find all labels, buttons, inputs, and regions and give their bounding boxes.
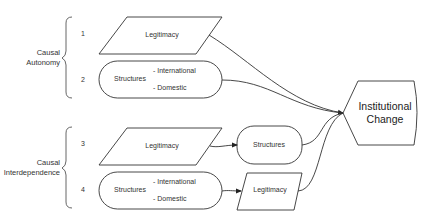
row-number-4: 4: [81, 186, 85, 193]
row-number-3: 3: [81, 140, 85, 147]
group-label-causal-autonomy: Causal Autonomy: [10, 48, 60, 68]
institutional-change-label: Institutional Change: [352, 100, 418, 126]
connector-1-to-outcome: [209, 35, 343, 113]
group-label-line: Causal: [10, 48, 60, 58]
legitimacy-label-3: Legitimacy: [138, 142, 186, 149]
outcome-label-line: Change: [352, 113, 418, 126]
structures-label-2: Structures: [110, 75, 150, 82]
group-label-line: Autonomy: [10, 58, 60, 68]
sub-item-domestic-2: - Domestic: [153, 84, 186, 91]
group-label-line: Causal: [0, 158, 60, 168]
brace-causal-interdependence: [62, 127, 72, 208]
connector-3-to-structures: [210, 145, 237, 147]
connector-2-to-outcome: [222, 80, 343, 113]
group-label-line: Interdependence: [0, 168, 60, 178]
structures-label-3b: Structures: [244, 141, 294, 148]
structures-label-4: Structures: [110, 186, 150, 193]
row-number-2: 2: [81, 76, 85, 83]
sub-item-international-4: - International: [153, 178, 196, 185]
legitimacy-label-4b: Legitimacy: [245, 186, 295, 193]
brace-causal-autonomy: [62, 17, 72, 98]
row-number-1: 1: [81, 30, 85, 37]
outcome-label-line: Institutional: [352, 100, 418, 113]
sub-item-domestic-4: - Domestic: [153, 195, 186, 202]
legitimacy-label-1: Legitimacy: [138, 31, 186, 38]
sub-item-international-2: - International: [153, 67, 196, 74]
connector-4b-to-outcome: [298, 113, 343, 191]
group-label-causal-interdependence: Causal Interdependence: [0, 158, 60, 178]
